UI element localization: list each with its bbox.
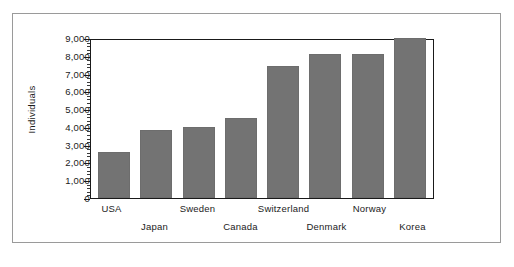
bar-sweden xyxy=(183,127,215,198)
bar-switzerland xyxy=(267,66,299,198)
x-tick-label-canada: Canada xyxy=(198,221,284,232)
bar-series xyxy=(91,40,433,198)
bar-norway xyxy=(352,54,384,198)
plot-area xyxy=(90,39,434,199)
bar-canada xyxy=(225,118,257,198)
x-tick-label-denmark: Denmark xyxy=(284,221,370,232)
x-tick-label-switzerland: Switzerland xyxy=(241,203,327,214)
x-tick-label-japan: Japan xyxy=(112,221,198,232)
bar-denmark xyxy=(309,54,341,198)
x-tick-label-norway: Norway xyxy=(327,203,413,214)
bar-japan xyxy=(140,130,172,198)
bar-korea xyxy=(394,38,426,198)
x-tick-label-sweden: Sweden xyxy=(155,203,241,214)
x-tick-label-korea: Korea xyxy=(370,221,456,232)
chart-figure: 01,0002,0003,0004,0005,0006,0007,0008,00… xyxy=(0,0,514,267)
bar-usa xyxy=(98,152,130,198)
x-tick-label-usa: USA xyxy=(69,203,155,214)
y-axis-title: Individuals xyxy=(26,65,37,155)
